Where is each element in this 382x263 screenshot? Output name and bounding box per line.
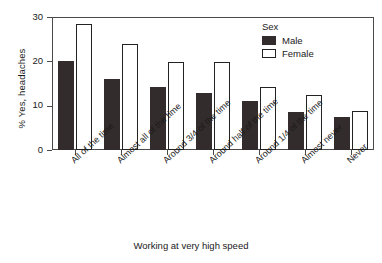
y-axis-ticks: 0102030	[0, 17, 52, 150]
bar-male[interactable]	[58, 61, 74, 150]
legend-title: Sex	[262, 21, 354, 32]
x-axis-title: Working at very high speed	[0, 240, 382, 251]
legend-swatch-female-icon	[262, 49, 276, 58]
bar-male[interactable]	[104, 79, 120, 150]
y-tick-label: 20	[32, 55, 43, 66]
bar-female[interactable]	[76, 24, 92, 150]
bar-chart-figure: % Yes, headaches 0102030 All of the time…	[0, 0, 382, 263]
y-tick-label: 10	[32, 99, 43, 110]
bar-group	[58, 17, 92, 150]
legend-item-female[interactable]: Female	[262, 48, 354, 59]
bar-female[interactable]	[122, 44, 138, 150]
y-tick-label: 0	[38, 144, 43, 155]
legend-label-female: Female	[282, 48, 314, 59]
y-tick-label: 30	[32, 11, 43, 22]
legend-swatch-male-icon	[262, 36, 276, 45]
legend-item-male[interactable]: Male	[262, 35, 354, 46]
legend: Sex Male Female	[262, 21, 354, 59]
legend-label-male: Male	[282, 35, 303, 46]
